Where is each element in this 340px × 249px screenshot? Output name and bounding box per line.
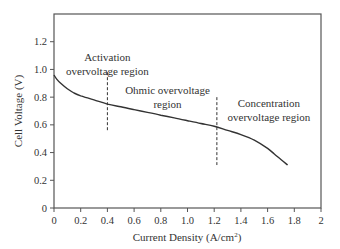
x-tick-label: 1.0 <box>181 215 194 226</box>
region-label-line: region <box>153 98 182 110</box>
x-tick-label: 1.2 <box>208 215 221 226</box>
y-tick-label: 1.2 <box>34 36 47 47</box>
region-label-line: overvoltage region <box>66 65 149 77</box>
region-label-line: Concentration <box>238 97 301 109</box>
polarization-chart: 00.20.40.60.81.01.2 00.20.40.60.81.01.21… <box>0 0 340 249</box>
x-axis-title-close: ) <box>238 231 242 244</box>
y-axis-title: Cell Voltage (V) <box>12 75 25 148</box>
region-label-line: overvoltage region <box>228 111 311 123</box>
x-tick-label: 0 <box>51 215 56 226</box>
region-label: Ohmic overvoltageregion <box>125 84 210 110</box>
x-tick-label: 1.4 <box>234 215 248 226</box>
region-label-line: Activation <box>84 51 131 63</box>
region-label-line: Ohmic overvoltage <box>125 84 210 96</box>
x-tick-label: 0.4 <box>101 215 115 226</box>
x-axis-ticks: 00.20.40.60.81.01.21.41.61.82 <box>51 208 323 226</box>
y-axis-ticks: 00.20.40.60.81.01.2 <box>34 36 54 213</box>
x-axis-title: Current Density (A/cm2) <box>133 231 242 244</box>
y-tick-label: 0.2 <box>34 175 47 186</box>
x-tick-label: 0.2 <box>74 215 87 226</box>
y-tick-label: 0.4 <box>34 147 48 158</box>
x-axis-title-main: Current Density (A/cm <box>133 231 235 244</box>
y-tick-label: 0 <box>42 203 47 214</box>
y-tick-label: 0.6 <box>34 119 47 130</box>
region-label: Activationovervoltage region <box>66 51 149 77</box>
region-label: Concentrationovervoltage region <box>228 97 311 123</box>
region-annotations: Activationovervoltage regionOhmic overvo… <box>66 51 311 123</box>
y-tick-label: 1.0 <box>34 64 47 75</box>
y-tick-label: 0.8 <box>34 92 47 103</box>
x-tick-label: 0.6 <box>128 215 141 226</box>
x-tick-label: 1.8 <box>288 215 301 226</box>
x-tick-label: 2 <box>318 215 323 226</box>
x-tick-label: 0.8 <box>154 215 167 226</box>
x-tick-label: 1.6 <box>261 215 274 226</box>
